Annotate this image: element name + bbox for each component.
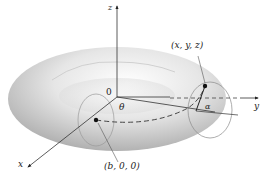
point-xyz-label: (x, y, z)	[171, 41, 203, 50]
theta-label: θ	[119, 103, 124, 112]
point-xyz	[203, 84, 207, 88]
y-axis-label: y	[254, 102, 259, 111]
alpha-label: α	[205, 103, 210, 111]
point-b00	[94, 118, 98, 122]
z-axis-label: z	[108, 4, 112, 12]
origin-label: 0	[106, 88, 112, 97]
x-axis-label: x	[18, 160, 23, 169]
torus-diagram	[0, 0, 264, 180]
point-b00-label: (b, 0, 0)	[104, 162, 140, 171]
